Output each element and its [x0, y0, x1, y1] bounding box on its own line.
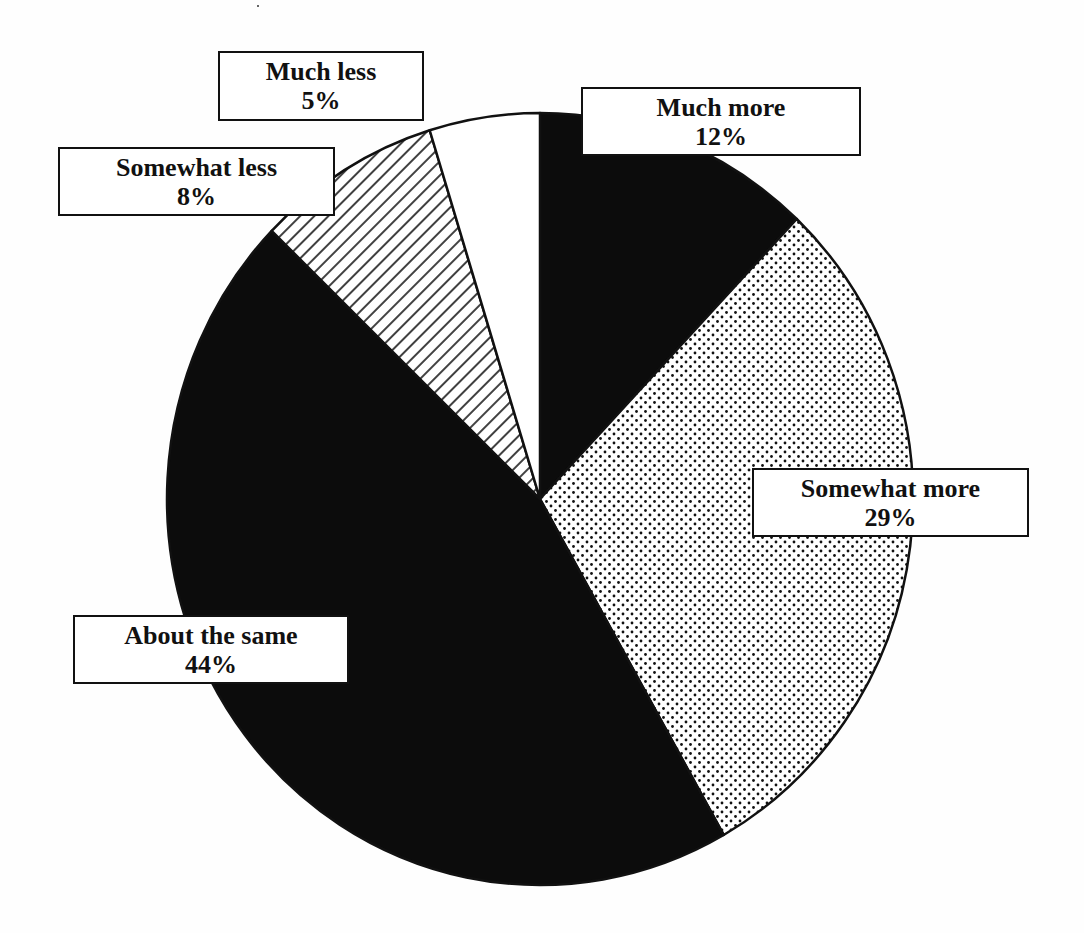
pie-chart [0, 0, 1084, 933]
label-somewhat-more: Somewhat more 29% [752, 468, 1029, 537]
label-much-less-title: Much less [220, 57, 422, 86]
scan-speck [257, 5, 259, 7]
label-somewhat-less-title: Somewhat less [60, 153, 333, 182]
label-somewhat-less-percent: 8% [60, 182, 333, 211]
label-much-more-percent: 12% [583, 122, 859, 151]
label-much-less: Much less 5% [218, 51, 424, 121]
label-somewhat-more-title: Somewhat more [754, 474, 1027, 503]
label-somewhat-more-percent: 29% [754, 503, 1027, 532]
label-much-more: Much more 12% [581, 87, 861, 156]
label-somewhat-less: Somewhat less 8% [58, 147, 335, 216]
label-much-more-title: Much more [583, 93, 859, 122]
label-about-the-same-percent: 44% [75, 650, 347, 679]
label-much-less-percent: 5% [220, 86, 422, 115]
label-about-the-same-title: About the same [75, 621, 347, 650]
label-about-the-same: About the same 44% [73, 615, 349, 684]
